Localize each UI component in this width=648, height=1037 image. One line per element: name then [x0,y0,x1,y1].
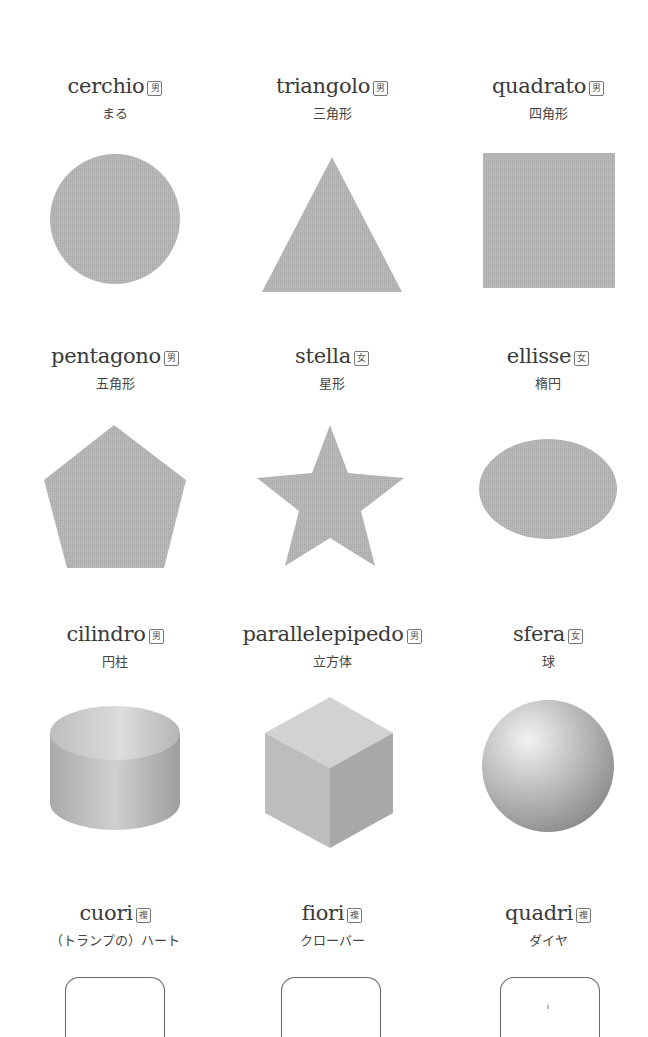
triangle-shape [262,157,402,292]
ellipse-shape [479,439,617,539]
circle-shape [50,154,180,284]
card-diamonds [500,977,600,1037]
cube-shape [265,697,393,848]
square-shape [483,153,615,288]
sphere-shape [482,700,614,832]
cylinder-shape [50,706,180,830]
pentagon-shape [44,425,186,568]
card-clubs [281,977,381,1037]
star-shape [257,425,404,566]
card-hearts [65,977,165,1037]
